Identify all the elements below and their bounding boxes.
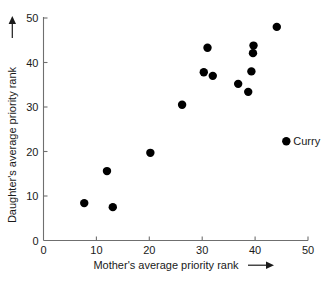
- point-annotation-label: Curry: [293, 135, 320, 147]
- scatter-chart-figure: 0102030405001020304050 Curry Mother's av…: [0, 0, 325, 283]
- data-point: [203, 44, 211, 52]
- y-axis-title: Daughter's average priority rank: [6, 66, 18, 223]
- data-point: [200, 68, 208, 76]
- data-point: [249, 41, 257, 49]
- data-point: [234, 80, 242, 88]
- data-point: [178, 101, 186, 109]
- y-tick-label: 10: [26, 190, 38, 202]
- data-point: [103, 167, 111, 175]
- x-tick-label: 20: [143, 244, 155, 256]
- scatter-plot-canvas: 0102030405001020304050 Curry Mother's av…: [0, 0, 325, 283]
- y-tick-label: 0: [32, 235, 38, 247]
- x-tick-label: 0: [40, 244, 46, 256]
- x-tick-label: 30: [196, 244, 208, 256]
- data-point: [249, 49, 257, 57]
- data-point: [282, 137, 290, 145]
- data-point: [247, 67, 255, 75]
- data-point: [146, 149, 154, 157]
- y-tick-label: 40: [26, 57, 38, 69]
- data-point: [80, 199, 88, 207]
- point-annotation-group: Curry: [293, 135, 320, 147]
- y-tick-label: 20: [26, 146, 38, 158]
- y-tick-label: 30: [26, 101, 38, 113]
- x-tick-label: 40: [249, 244, 261, 256]
- x-tick-label: 50: [302, 244, 314, 256]
- x-axis-title: Mother's average priority rank: [93, 259, 239, 271]
- data-point: [209, 72, 217, 80]
- x-tick-label: 10: [90, 244, 102, 256]
- data-point: [244, 88, 252, 96]
- y-tick-label: 50: [26, 12, 38, 24]
- data-point: [273, 23, 281, 31]
- data-point: [109, 203, 117, 211]
